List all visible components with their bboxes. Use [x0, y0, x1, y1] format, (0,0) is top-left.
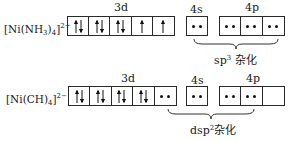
label-4s-row2: 4s — [191, 75, 204, 86]
single-electron-arrow-icon — [132, 17, 153, 35]
label-4s-row1: 4s — [190, 4, 203, 15]
brace-icon-row2 — [166, 108, 256, 120]
ligand-electron-pair-dots-icon — [187, 17, 207, 35]
empty-orbital — [263, 87, 284, 105]
hybridization-label-row2: dsp2杂化 — [190, 122, 236, 137]
ion-formula: [Ni(NH — [4, 23, 43, 35]
paired-electron-arrows-icon — [112, 87, 133, 105]
paired-electron-arrows-icon — [133, 87, 154, 105]
ligand-electron-pair-dots-icon — [155, 87, 176, 105]
brace-icon-row1 — [192, 38, 280, 50]
ligand-electron-pair-dots-icon — [263, 17, 284, 35]
paired-electron-arrows-icon — [90, 87, 111, 105]
ion-charge: 2− — [57, 92, 67, 100]
hyb-prefix: dsp — [190, 124, 210, 137]
orbital-3d-row2 — [68, 86, 177, 106]
ligand-electron-pair-dots-icon — [220, 17, 241, 35]
single-electron-arrow-icon — [153, 17, 174, 35]
paired-electron-arrows-icon — [89, 17, 110, 35]
paired-electron-arrows-icon — [110, 17, 131, 35]
label-4p-row2: 4p — [246, 73, 260, 84]
ligand-electron-pair-dots-icon — [187, 87, 207, 105]
label-4p-row1: 4p — [245, 2, 259, 13]
orbital-4p-row2 — [219, 86, 285, 106]
hyb-prefix: sp — [214, 54, 227, 67]
ion-label-row2: [Ni(CH)4]2− — [6, 90, 67, 109]
ligand-electron-pair-dots-icon — [241, 87, 262, 105]
hybridization-label-row1: sp3 杂化 — [214, 52, 257, 67]
label-3d-row1: 3d — [114, 2, 128, 13]
paired-electron-arrows-icon — [68, 17, 89, 35]
ligand-electron-pair-dots-icon — [241, 17, 262, 35]
paired-electron-arrows-icon — [69, 87, 90, 105]
label-3d-row2: 3d — [121, 73, 135, 84]
orbital-4p-row1 — [219, 16, 285, 36]
orbital-4s-row1 — [186, 16, 208, 36]
orbital-3d-row1 — [67, 16, 175, 36]
hyb-suffix: 杂化 — [214, 124, 236, 137]
ion-formula: [Ni(CH) — [6, 93, 48, 105]
ligand-electron-pair-dots-icon — [220, 87, 241, 105]
hyb-suffix: 杂化 — [231, 54, 257, 67]
orbital-4s-row2 — [186, 86, 208, 106]
ion-label-row1: [Ni(NH3)4]2+ — [4, 20, 71, 39]
